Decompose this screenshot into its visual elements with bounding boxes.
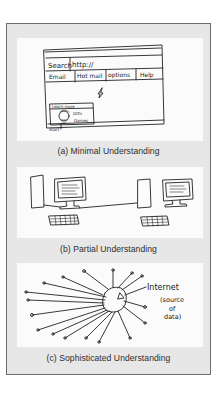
computers-sketch xyxy=(17,167,203,238)
tab-options: options xyxy=(108,71,130,79)
tab-help: Help xyxy=(140,71,154,79)
address-value: http:// xyxy=(72,61,94,69)
caption-minimal-understanding: (a) Minimal Understanding xyxy=(7,146,210,156)
caption-partial-understanding: (b) Partial Understanding xyxy=(7,244,210,254)
network-sketch: Internet (source of data) xyxy=(17,263,203,347)
keyboard-icon xyxy=(141,216,169,226)
panel-minimal-understanding: Search http:// Email Hot mail options He… xyxy=(17,38,203,141)
start-label: start xyxy=(49,127,60,132)
source-note-1: (source xyxy=(160,296,184,304)
source-note-2: of xyxy=(169,305,176,313)
cursor-icon xyxy=(98,88,103,98)
tower-icon xyxy=(138,179,151,208)
figure-frame: Search http:// Email Hot mail options He… xyxy=(6,23,211,375)
panel-partial-understanding xyxy=(17,167,203,238)
internet-hub xyxy=(102,287,126,312)
internet-label: Internet xyxy=(147,283,179,292)
caption-sophisticated-understanding: (c) Sophisticated Understanding xyxy=(7,353,210,363)
popup-title: Learn more xyxy=(52,104,75,109)
tower-icon xyxy=(31,175,44,208)
tab-email: Email xyxy=(49,73,66,80)
popup-gifts: Gifts xyxy=(73,111,82,116)
keyboard-icon xyxy=(49,215,79,225)
browser-sketch: Search http:// Email Hot mail options He… xyxy=(17,38,203,141)
tab-hotmail: Hot mail xyxy=(77,72,103,79)
panel-sophisticated-understanding: Internet (source of data) xyxy=(17,263,203,347)
source-note-3: data) xyxy=(164,313,181,321)
search-label: Search xyxy=(48,62,72,70)
